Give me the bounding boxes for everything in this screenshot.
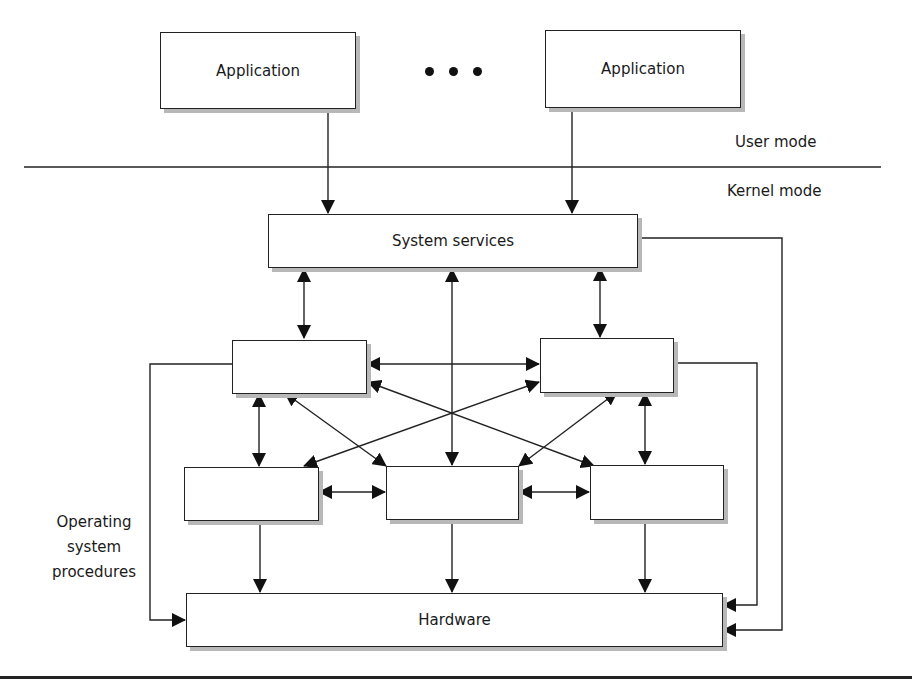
user-mode-label: User mode: [735, 133, 817, 151]
hardware-box: Hardware: [186, 593, 723, 647]
system-services-bypass-to-hardware: [637, 238, 782, 630]
application-box-right: Application: [545, 30, 741, 108]
procedure-box-upper-left: [232, 340, 367, 394]
application-label: Application: [601, 60, 685, 78]
system-services-box: System services: [268, 214, 638, 268]
kernel-mode-label: Kernel mode: [727, 182, 821, 200]
application-label: Application: [216, 62, 300, 80]
procedures-label-line: system: [44, 535, 144, 560]
application-box-left: Application: [160, 32, 356, 109]
ellipsis-dot: [425, 67, 434, 76]
upper-right-to-lower-middle-arrow: [519, 392, 617, 466]
procedure-box-lower-right: [590, 465, 724, 520]
procedure-box-upper-right: [540, 338, 674, 393]
procedure-box-lower-left: [184, 467, 319, 521]
hardware-label: Hardware: [418, 611, 490, 629]
ellipsis-dot: [473, 67, 482, 76]
cross-upper-left-to-lower-right: [368, 382, 594, 466]
procedure-box-lower-middle: [386, 466, 519, 520]
procedures-label-line: Operating: [44, 510, 144, 535]
procedures-label-line: procedures: [44, 560, 144, 585]
system-services-label: System services: [392, 232, 514, 250]
cross-upper-right-to-lower-left: [304, 382, 539, 466]
ellipsis-dot: [449, 67, 458, 76]
operating-system-procedures-label: Operating system procedures: [44, 510, 144, 585]
